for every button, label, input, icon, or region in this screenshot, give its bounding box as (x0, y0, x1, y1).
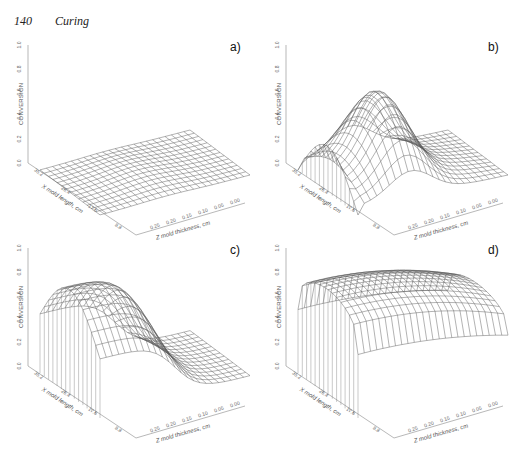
z-tick-label: 0.0 (274, 160, 280, 167)
surface-wireframe (258, 228, 516, 448)
panel-label: c) (230, 243, 240, 257)
surface-plot-c: 0.00.20.40.60.81.0CONVERSION35.226.417.6… (0, 228, 258, 448)
z-tick-label: 1.0 (274, 245, 280, 252)
z-tick-label: 1.0 (16, 42, 22, 49)
z-axis-label: CONVERSION (18, 83, 24, 125)
z-tick-label: 0.0 (16, 160, 22, 167)
z-tick-label: 0.2 (16, 339, 22, 346)
z-tick-label: 0.2 (16, 136, 22, 143)
surface-wireframe (258, 25, 516, 245)
panel-label: d) (488, 243, 499, 257)
z-tick-label: 0.8 (274, 268, 280, 275)
z-tick-label: 1.0 (16, 245, 22, 252)
z-tick-label: 0.0 (16, 363, 22, 370)
z-axis-label: CONVERSION (276, 286, 282, 328)
z-tick-label: 0.2 (274, 339, 280, 346)
surface-plot-b: 0.00.20.40.60.81.0CONVERSION35.226.417.6… (258, 25, 516, 245)
z-axis-label: CONVERSION (276, 83, 282, 125)
z-axis-label: CONVERSION (18, 286, 24, 328)
z-tick-label: 1.0 (274, 42, 280, 49)
surface-plot-d: 0.00.20.40.60.81.0CONVERSION35.226.417.6… (258, 228, 516, 448)
z-tick-label: 0.8 (16, 268, 22, 275)
z-tick-label: 0.2 (274, 136, 280, 143)
panel-label: b) (488, 40, 499, 54)
z-tick-label: 0.8 (274, 65, 280, 72)
z-tick-label: 0.0 (274, 363, 280, 370)
panel-label: a) (230, 40, 241, 54)
surface-wireframe (0, 228, 258, 448)
surface-wireframe (0, 25, 258, 245)
z-tick-label: 0.8 (16, 65, 22, 72)
surface-plot-a: 0.00.20.40.60.81.0CONVERSION35.226.417.6… (0, 25, 258, 245)
